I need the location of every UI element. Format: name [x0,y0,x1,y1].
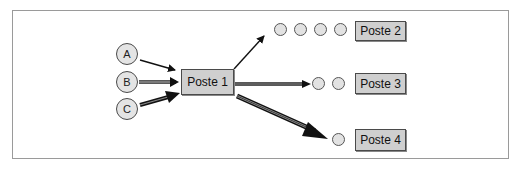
poste-3-box: Poste 3 [355,73,406,94]
poste-4-box: Poste 4 [355,129,406,151]
poste-1-label: Poste 1 [187,75,228,89]
arrow-poste1-to-poste3 [235,80,311,88]
poste-4-label: Poste 4 [360,133,401,147]
source-c-label: C [123,103,131,115]
arrow-poste1-to-poste4 [237,96,328,139]
source-b-label: B [123,76,130,88]
flow-arrows [0,0,520,169]
source-a-circle: A [116,43,138,65]
arrow-c-to-poste1 [140,91,180,105]
arrow-a-to-poste1 [140,60,175,70]
source-c-circle: C [116,98,138,120]
queue-circle-poste2-2 [294,23,307,36]
poste-3-label: Poste 3 [360,77,401,91]
poste-2-label: Poste 2 [360,24,401,38]
queue-circle-poste2-3 [314,23,327,36]
source-a-label: A [123,48,130,60]
arrow-poste1-to-poste2 [234,36,264,69]
queue-circle-poste2-1 [274,23,287,36]
queue-circle-poste3-1 [312,77,325,90]
queue-circle-poste3-2 [332,77,345,90]
poste-2-box: Poste 2 [355,21,406,41]
source-b-circle: B [116,71,138,93]
queue-circle-poste4-1 [332,133,345,146]
queue-circle-poste2-4 [334,23,347,36]
arrow-b-to-poste1 [139,77,179,87]
poste-1-box: Poste 1 [181,69,234,95]
